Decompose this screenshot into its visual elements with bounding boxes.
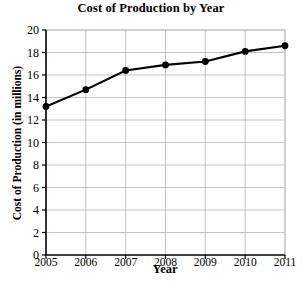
data-point-marker [122, 67, 129, 74]
data-point-marker [242, 48, 249, 55]
data-point-marker [43, 103, 50, 110]
data-point-marker [82, 86, 89, 93]
data-point-marker [282, 42, 289, 49]
data-point-marker [162, 61, 169, 68]
plot-area [0, 0, 302, 282]
data-point-marker [202, 58, 209, 65]
chart-container: Cost of Production by Year Cost of Produ… [0, 0, 302, 282]
